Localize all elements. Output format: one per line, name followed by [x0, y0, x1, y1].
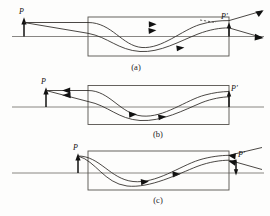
object-label-b: P	[40, 77, 46, 86]
figure-svg: P P' (a)	[0, 0, 270, 216]
object-label-c: P	[72, 143, 78, 152]
object-label-a: P	[18, 7, 24, 16]
image-label-a: P'	[220, 12, 228, 21]
image-label-b: P'	[230, 84, 238, 93]
optics-figure: P P' (a)	[0, 0, 270, 216]
caption-c: (c)	[153, 195, 163, 205]
image-label-c: P'	[237, 150, 245, 159]
caption-b: (b)	[153, 129, 163, 139]
caption-a: (a)	[131, 62, 141, 72]
